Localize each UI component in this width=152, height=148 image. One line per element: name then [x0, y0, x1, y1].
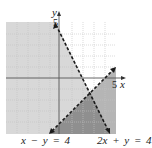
x-axis-label: x	[120, 78, 125, 90]
inequality-graph	[0, 0, 152, 148]
y-axis-arrow-icon	[57, 11, 61, 16]
equation-label-2x-plus-y: 2x + y = 4	[97, 134, 152, 146]
y-tick-label: 5	[53, 17, 58, 28]
equation-label-x-minus-y: x − y = 4	[21, 134, 70, 146]
x-tick-label: 5	[112, 79, 117, 90]
